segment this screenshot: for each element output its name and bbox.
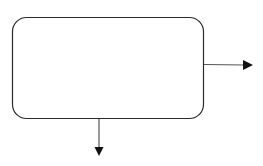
down-arrow [95, 119, 104, 156]
right-arrow [204, 60, 253, 70]
right-arrow-shaft [204, 65, 244, 66]
process-box [13, 18, 204, 119]
down-arrow-head-icon [95, 147, 104, 156]
flow-diagram [0, 0, 263, 166]
right-arrow-head-icon [243, 60, 253, 70]
